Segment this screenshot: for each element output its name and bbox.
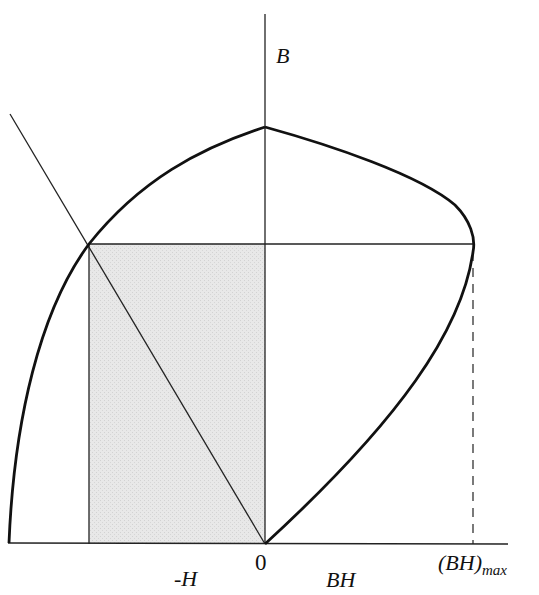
bh-max-subscript: max <box>482 562 507 578</box>
origin-label: 0 <box>255 551 267 574</box>
bh-max-main: (BH) <box>438 550 482 575</box>
bh-label: BH <box>326 569 355 591</box>
diagram-svg <box>0 0 539 595</box>
bh-max-label: (BH)max <box>438 552 507 578</box>
diagram-canvas: B 0 -H BH (BH)max <box>0 0 539 595</box>
b-axis-label: B <box>276 45 289 67</box>
neg-h-label: -H <box>174 568 197 590</box>
h-axis <box>8 543 508 544</box>
energy-product-curve <box>265 127 474 544</box>
